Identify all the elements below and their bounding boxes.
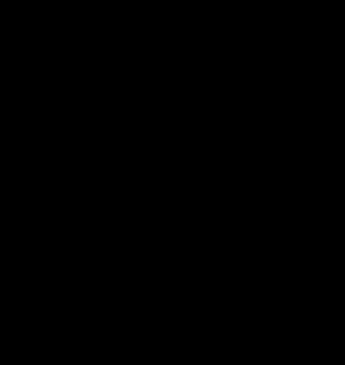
figure-root xyxy=(0,0,345,365)
figure-background xyxy=(0,0,345,365)
nested-squares-diagram xyxy=(0,0,345,365)
